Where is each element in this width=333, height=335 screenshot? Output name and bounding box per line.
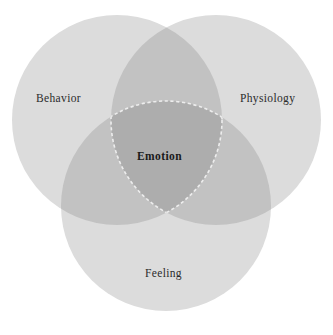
venn-label-physiology: Physiology (240, 92, 295, 104)
venn-label-behavior: Behavior (36, 92, 81, 104)
venn-diagram-figure: Behavior Physiology Emotion Feeling (0, 0, 333, 335)
venn-label-emotion: Emotion (137, 150, 182, 162)
venn-label-feeling: Feeling (145, 267, 182, 279)
venn-diagram-canvas (0, 0, 333, 335)
